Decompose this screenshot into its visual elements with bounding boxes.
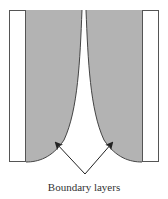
- arrow-left: [56, 143, 85, 174]
- diagram-canvas: [0, 0, 168, 199]
- left-plate: [10, 11, 26, 162]
- right-plate: [143, 11, 159, 162]
- boundary-layer-diagram: Boundary layers: [0, 0, 168, 199]
- left-boundary-layer: [26, 10, 82, 162]
- arrow-right: [85, 143, 112, 174]
- boundary-layers-label: Boundary layers: [0, 181, 168, 193]
- right-boundary-layer: [86, 10, 142, 162]
